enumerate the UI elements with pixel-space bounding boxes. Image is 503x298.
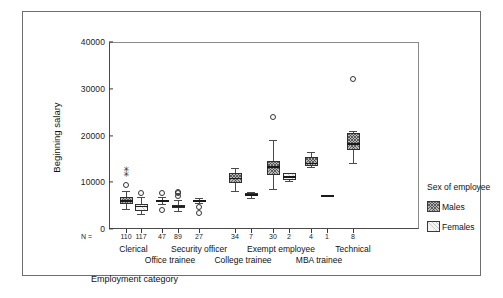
- box-iqr: [305, 157, 318, 166]
- category-label: Security officer: [171, 244, 227, 254]
- n-value: 117: [135, 233, 146, 240]
- boxplot-figure: 010000200003000040000 Beginning salary N…: [0, 0, 503, 298]
- category-label: Technical: [335, 244, 370, 254]
- n-value: 1: [325, 233, 329, 240]
- whisker-cap-upper: [195, 198, 204, 199]
- whisker-cap-upper: [349, 131, 358, 132]
- category-label: MBA trainee: [296, 255, 342, 265]
- whisker-lower: [273, 175, 274, 189]
- n-value: 2: [287, 233, 291, 240]
- y-axis-title: Beginning salary: [51, 83, 62, 193]
- whisker-cap-upper: [158, 197, 167, 198]
- x-tick-mark: [235, 229, 236, 233]
- outlier-point: [196, 210, 202, 216]
- females-swatch-icon: [427, 221, 440, 232]
- x-tick-mark: [327, 229, 328, 233]
- whisker-upper: [141, 197, 142, 204]
- x-tick-mark: [251, 229, 252, 233]
- median-line: [172, 206, 185, 208]
- whisker-upper: [273, 140, 274, 161]
- median-line: [193, 200, 206, 202]
- whisker-cap-upper: [137, 197, 146, 198]
- whisker-cap-lower: [174, 211, 183, 212]
- legend-label-males: Males: [442, 202, 465, 212]
- whisker-cap-lower: [247, 198, 256, 199]
- category-label: Clerical: [119, 244, 147, 254]
- legend-entry-males: Males: [427, 201, 503, 212]
- n-value: 7: [249, 233, 253, 240]
- x-tick-mark: [289, 229, 290, 233]
- median-line: [347, 143, 360, 145]
- legend: Sex of employee Males Females: [427, 182, 503, 232]
- legend-title: Sex of employee: [427, 182, 503, 192]
- outlier-point: [159, 207, 165, 213]
- y-tick-mark: [109, 182, 113, 183]
- whisker-cap-upper: [122, 191, 131, 192]
- median-line: [229, 178, 242, 180]
- whisker-cap-lower: [269, 189, 278, 190]
- y-tick-mark: [109, 228, 113, 229]
- y-tick-label: 0: [100, 224, 105, 234]
- whisker-cap-lower: [158, 204, 167, 205]
- extreme-point: ✳: [123, 168, 130, 172]
- x-tick-mark: [126, 229, 127, 233]
- whisker-cap-upper: [269, 140, 278, 141]
- median-line: [305, 163, 318, 165]
- y-tick-label: 10000: [81, 177, 105, 187]
- whisker-cap-lower: [307, 167, 316, 168]
- y-tick-mark: [109, 135, 113, 136]
- males-swatch-icon: [427, 201, 440, 212]
- n-value: 27: [195, 233, 203, 240]
- x-tick-mark: [273, 229, 274, 233]
- n-value: 8: [351, 233, 355, 240]
- outlier-point: [270, 114, 276, 120]
- x-axis-title: Employment category: [91, 274, 178, 284]
- y-tick-mark: [109, 88, 113, 89]
- y-tick-label: 30000: [81, 84, 105, 94]
- boxplot-single-value: [321, 195, 334, 197]
- category-label: Office trainee: [145, 255, 195, 265]
- n-row-label: N =: [81, 233, 92, 240]
- outlier-point: [350, 76, 356, 82]
- x-tick-mark: [178, 229, 179, 233]
- outlier-point: [138, 190, 144, 196]
- median-line: [245, 194, 258, 196]
- whisker-cap-upper: [307, 152, 316, 153]
- whisker-lower: [353, 150, 354, 163]
- x-tick-mark: [311, 229, 312, 233]
- median-line: [156, 200, 169, 202]
- figure-frame: 010000200003000040000 Beginning salary N…: [22, 11, 481, 276]
- legend-entry-females: Females: [427, 221, 503, 232]
- category-label: College trainee: [214, 255, 271, 265]
- outlier-point: [159, 190, 165, 196]
- category-label: Exempt employee: [247, 244, 315, 254]
- whisker-cap-lower: [285, 181, 294, 182]
- median-line: [120, 200, 133, 202]
- box-iqr: [347, 133, 360, 149]
- x-tick-mark: [141, 229, 142, 233]
- n-value: 34: [231, 233, 239, 240]
- n-value: 47: [158, 233, 166, 240]
- n-value: 4: [309, 233, 313, 240]
- whisker-lower: [235, 183, 236, 190]
- n-value: 30: [269, 233, 277, 240]
- outlier-point: [175, 189, 181, 195]
- whisker-cap-lower: [231, 191, 240, 192]
- x-tick-mark: [353, 229, 354, 233]
- outlier-point: [123, 182, 129, 188]
- x-tick-mark: [162, 229, 163, 233]
- y-tick-label: 20000: [81, 131, 105, 141]
- whisker-cap-lower: [122, 209, 131, 210]
- whisker-cap-upper: [231, 168, 240, 169]
- x-tick-mark: [199, 229, 200, 233]
- y-axis-ticks: 010000200003000040000: [57, 42, 105, 229]
- whisker-cap-lower: [137, 214, 146, 215]
- y-tick-label: 40000: [81, 37, 105, 47]
- median-line: [267, 166, 280, 168]
- median-line: [135, 206, 148, 208]
- y-tick-mark: [109, 41, 113, 42]
- median-line: [283, 176, 296, 178]
- n-value: 110: [120, 233, 131, 240]
- whisker-cap-lower: [349, 163, 358, 164]
- whisker-cap-upper: [174, 200, 183, 201]
